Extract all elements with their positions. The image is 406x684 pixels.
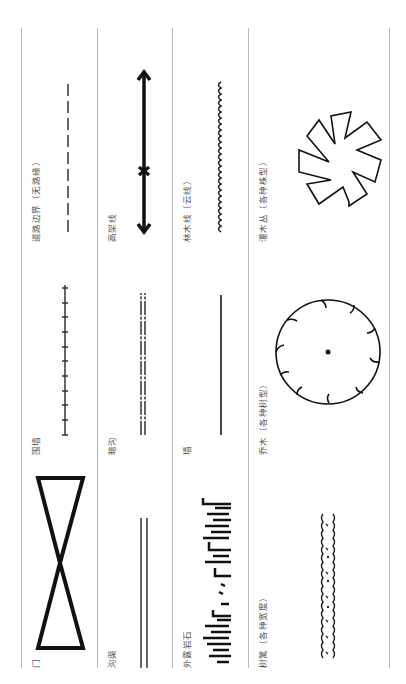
rock-outcrop-icon	[173, 458, 243, 668]
legend-cell-overhead-line: 高架线	[98, 28, 173, 242]
map-symbol-legend-table: 门 围墙 道路边界（无路缘）	[21, 28, 388, 668]
culvert-dashed-double-line-icon	[98, 245, 168, 455]
legend-cell-tree: 乔木（各种树型）	[249, 242, 389, 455]
wall-line-icon	[173, 245, 243, 455]
legend-cell-wall: 墙	[173, 242, 249, 455]
hedge-icon	[249, 458, 389, 668]
legend-row-4: 树篱（各种宽度） 乔木（各种树型）	[248, 28, 390, 668]
legend-cell-gate: 门	[22, 455, 98, 668]
gate-bowtie-icon	[28, 458, 98, 658]
legend-cell-rock-outcrop: 外露岩石	[173, 455, 249, 668]
overhead-line-arrow-icon	[98, 32, 168, 242]
fence-ticked-line-icon	[22, 255, 92, 455]
legend-cell-fence: 围墙	[22, 242, 98, 455]
legend-cell-hedge: 树篱（各种宽度）	[249, 455, 389, 668]
ditch-double-line-icon	[98, 458, 168, 668]
legend-cell-tree-line: 林木线（云线）	[173, 28, 249, 242]
road-edge-dashed-line-icon	[22, 32, 92, 242]
legend-row-3: 外露岩石 墙	[172, 28, 249, 668]
tree-line-scalloped-icon	[173, 32, 243, 242]
legend-cell-culvert: 暗沟	[98, 242, 173, 455]
legend-row-1: 门 围墙 道路边界（无路缘）	[21, 28, 98, 668]
legend-label: 门	[29, 659, 41, 669]
shrub-star-icon	[249, 32, 389, 242]
legend-cell-ditch: 沟渠	[98, 455, 173, 668]
legend-cell-road-edge: 道路边界（无路缘）	[22, 28, 98, 242]
legend-row-2: 沟渠 暗沟 高架线	[97, 28, 173, 668]
tree-canopy-circle-icon	[249, 245, 389, 455]
legend-cell-shrub: 灌木丛（各种株型）	[249, 28, 389, 242]
